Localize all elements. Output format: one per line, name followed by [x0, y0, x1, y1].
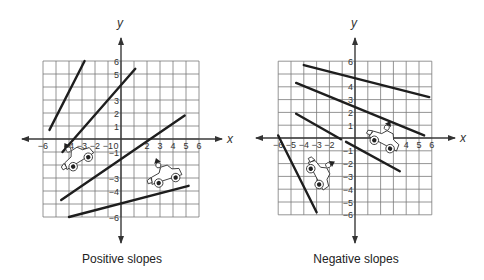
car-illustration: [141, 152, 183, 190]
slope-line: [50, 61, 85, 130]
x-tick-label: 4: [170, 141, 175, 151]
car-illustration: [302, 148, 344, 192]
x-tick-label: 6: [429, 140, 434, 150]
y-tick-label: −3: [109, 174, 119, 184]
y-tick-label: 1: [114, 122, 119, 132]
x-tick-label: 6: [196, 141, 201, 151]
y-tick-label: −3: [343, 172, 353, 182]
x-tick-label: 5: [416, 140, 421, 150]
x-tick-label: 3: [157, 141, 162, 151]
y-tick-label: −1: [109, 148, 119, 158]
y-tick-label: 5: [114, 70, 119, 80]
y-tick-label: 6: [348, 57, 353, 67]
y-tick-label: −4: [343, 185, 353, 195]
y-tick-label: 6: [114, 57, 119, 67]
y-axis-label: y: [116, 16, 124, 30]
y-tick-label: −4: [109, 187, 119, 197]
y-tick-label: 3: [114, 96, 119, 106]
x-tick-label: −6: [38, 141, 48, 151]
slope-line: [304, 65, 429, 97]
y-tick-label: −1: [343, 146, 353, 156]
positive-slopes-caption: Positive slopes: [82, 252, 162, 266]
y-tick-label: 4: [348, 82, 353, 92]
x-tick-label: −5: [286, 140, 296, 150]
y-tick-label: 1: [348, 121, 353, 131]
y-tick-label: 2: [114, 109, 119, 119]
x-tick-label: 5: [183, 141, 188, 151]
x-tick-label: −3: [311, 140, 321, 150]
negative-slopes-plot: xy−6−5−4−3−245664321−1−2−3−4−5−6: [256, 16, 467, 243]
y-tick-label: 2: [348, 108, 353, 118]
x-axis-label: x: [459, 131, 467, 145]
negative-slopes-caption: Negative slopes: [313, 252, 398, 266]
y-tick-label: −6: [109, 213, 119, 223]
y-tick-label: −6: [343, 210, 353, 220]
x-tick-label: 4: [404, 140, 409, 150]
x-tick-label: −4: [299, 140, 309, 150]
slopes-figure: xy−6−4−3−2−102345665321−1−3−4−6 xy−6−5−4…: [0, 0, 484, 280]
y-tick-label: −2: [343, 159, 353, 169]
positive-slopes-plot: xy−6−4−3−2−102345665321−1−3−4−6: [22, 16, 234, 243]
x-tick-label: −2: [90, 141, 100, 151]
y-axis-label: y: [350, 16, 358, 30]
x-axis-label: x: [226, 132, 234, 146]
slope-line: [69, 186, 189, 217]
x-tick-label: −2: [324, 140, 334, 150]
y-tick-label: −5: [343, 198, 353, 208]
slope-line: [296, 114, 341, 140]
